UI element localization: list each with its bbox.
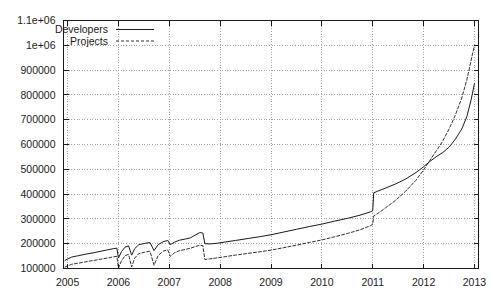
y-axis-tick-label: 900000 <box>20 64 55 76</box>
x-axis-tick-label: 2009 <box>259 276 283 288</box>
y-axis-tick-label: 500000 <box>20 163 55 175</box>
y-axis-tick-label: 1.1e+06 <box>17 14 55 26</box>
x-axis-tick-label: 2005 <box>56 276 80 288</box>
y-axis-tick-label: 300000 <box>20 213 55 225</box>
y-axis-tick-label: 1e+06 <box>26 39 56 51</box>
y-axis-tick-label: 800000 <box>20 89 55 101</box>
y-axis-tick-label: 100000 <box>20 262 55 274</box>
x-axis-tick-label: 2007 <box>158 276 182 288</box>
x-axis-tick-label: 2010 <box>310 276 334 288</box>
x-axis-tick-label: 2006 <box>107 276 131 288</box>
y-axis-tick-label: 700000 <box>20 113 55 125</box>
legend-label-projects: Projects <box>70 35 108 47</box>
chart-container: 1000002000003000004000005000006000007000… <box>0 0 491 299</box>
y-axis-tick-label: 200000 <box>20 237 55 249</box>
x-axis-tick-label: 2013 <box>463 276 487 288</box>
line-chart: 1000002000003000004000005000006000007000… <box>0 0 491 299</box>
x-axis-tick-label: 2008 <box>208 276 232 288</box>
y-axis-tick-label: 600000 <box>20 138 55 150</box>
x-axis-tick-label: 2012 <box>412 276 436 288</box>
y-axis-tick-label: 400000 <box>20 188 55 200</box>
x-axis-tick-label: 2011 <box>361 276 384 288</box>
legend-label-developers: Developers <box>55 23 108 35</box>
